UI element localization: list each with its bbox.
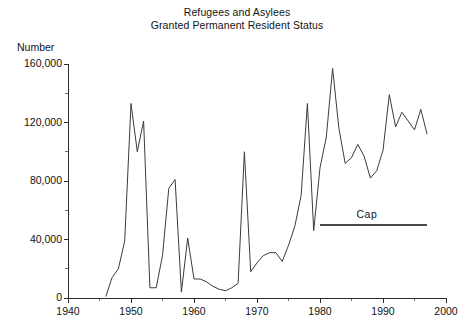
y-tick-label: 40,000	[4, 233, 62, 245]
x-tick-label: 1980	[300, 305, 340, 317]
x-tick-label: 1970	[237, 305, 277, 317]
chart-figure: Refugees and Asylees Granted Permanent R…	[0, 0, 474, 324]
y-tick-label: 160,000	[4, 57, 62, 69]
plot-area	[0, 0, 474, 324]
x-tick-label: 2000	[426, 305, 466, 317]
x-tick-label: 1960	[174, 305, 214, 317]
cap-annotation-label: Cap	[356, 208, 377, 220]
y-tick-label: 120,000	[4, 116, 62, 128]
x-tick-label: 1950	[111, 305, 151, 317]
x-tick-label: 1940	[48, 305, 88, 317]
y-tick-label: 0	[4, 291, 62, 303]
y-tick-label: 80,000	[4, 174, 62, 186]
data-series-line	[106, 68, 427, 296]
x-tick-label: 1990	[363, 305, 403, 317]
